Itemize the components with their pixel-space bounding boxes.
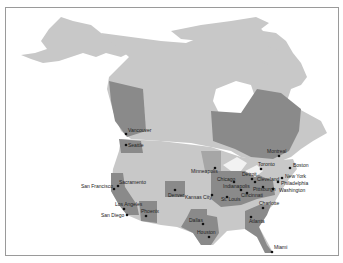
svg-text:Cincinnati: Cincinnati [241, 192, 263, 198]
city-philadelphia[interactable]: Philadelphia [277, 180, 309, 186]
svg-text:Chicago: Chicago [217, 176, 236, 182]
svg-text:Los Angeles: Los Angeles [115, 201, 143, 207]
city-san-francisco[interactable]: San Francisco [81, 183, 115, 190]
svg-text:Kansas City: Kansas City [185, 194, 212, 200]
svg-text:San Diego: San Diego [101, 212, 125, 218]
north-america-map: Vancouver Seattle San Francisco Sacramen… [6, 8, 338, 255]
svg-text:St. Louis: St. Louis [221, 196, 241, 202]
svg-text:Atlanta: Atlanta [249, 218, 265, 224]
svg-text:Washington: Washington [279, 187, 305, 193]
map-frame: Vancouver Seattle San Francisco Sacramen… [5, 7, 339, 256]
svg-text:Cleveland: Cleveland [257, 176, 279, 182]
city-st-louis[interactable]: St. Louis [221, 196, 241, 202]
city-kansas-city[interactable]: Kansas City [185, 194, 213, 200]
svg-text:Minneapolis: Minneapolis [191, 168, 218, 174]
svg-text:Vancouver: Vancouver [128, 127, 152, 133]
svg-text:Indianapolis: Indianapolis [223, 183, 250, 189]
svg-text:San Francisco: San Francisco [81, 183, 113, 189]
svg-text:Sacramento: Sacramento [119, 179, 146, 185]
svg-text:Philadelphia: Philadelphia [281, 180, 308, 186]
city-cincinnati[interactable]: Cincinnati [241, 192, 263, 198]
svg-text:Montreal: Montreal [267, 148, 286, 154]
svg-text:Boston: Boston [293, 162, 309, 168]
svg-text:Houston: Houston [197, 229, 216, 235]
svg-text:Dallas: Dallas [189, 217, 203, 223]
svg-text:Seattle: Seattle [128, 142, 144, 148]
city-seattle[interactable]: Seattle [125, 142, 144, 148]
city-san-diego[interactable]: San Diego [101, 212, 128, 218]
svg-text:Toronto: Toronto [258, 161, 275, 167]
svg-text:Miami: Miami [274, 244, 287, 250]
svg-text:New York: New York [285, 173, 307, 179]
svg-text:Phoenix: Phoenix [141, 208, 160, 214]
city-miami[interactable]: Miami [271, 244, 288, 253]
city-new-york[interactable]: New York [281, 173, 307, 179]
svg-text:Charlotte: Charlotte [259, 200, 280, 206]
svg-text:Detroit: Detroit [242, 171, 257, 177]
city-minneapolis[interactable]: Minneapolis [191, 167, 218, 174]
svg-text:Denver: Denver [168, 192, 184, 198]
